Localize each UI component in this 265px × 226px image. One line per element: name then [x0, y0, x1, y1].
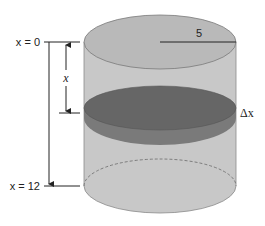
radius-label: 5: [196, 27, 202, 39]
depth-label: x: [62, 71, 69, 85]
top-label: x = 0: [16, 36, 40, 48]
bottom-label: x = 12: [10, 180, 40, 192]
cylinder-diagram: 5 x = 0 x = 12 x Δx: [0, 0, 265, 226]
thickness-label: Δx: [240, 106, 254, 120]
slice-disk: [84, 86, 236, 145]
